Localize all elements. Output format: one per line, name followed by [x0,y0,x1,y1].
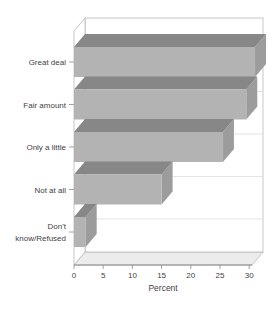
chart-panel: Great dealFair amountOnly a littleNot at… [0,0,280,312]
x-tick-label: 5 [101,271,106,280]
bar-front-face [74,47,255,77]
x-tick-label: 30 [245,271,254,280]
bar-top-face [74,34,266,47]
bar-top-face [74,162,173,175]
bar-front-face [74,175,162,205]
3d-horizontal-bar-chart: Great dealFair amountOnly a littleNot at… [0,0,280,312]
category-label: Only a little [26,143,66,152]
bar-front-face [74,217,86,247]
x-tick-label: 10 [128,271,137,280]
chart-floor [74,252,263,265]
x-tick-label: 25 [216,271,225,280]
category-label: Don't [48,222,67,231]
bar-front-face [74,132,223,162]
bar-top-face [74,119,234,132]
bar-front-face [74,90,246,120]
x-tick-label: 20 [186,271,195,280]
category-label: know/Refused [15,234,66,243]
x-tick-label: 0 [72,271,77,280]
x-tick-label: 15 [157,271,166,280]
bar-top-face [74,77,257,90]
category-label: Not at all [34,186,66,195]
x-axis-title: Percent [148,283,178,293]
category-label: Fair amount [23,101,66,110]
category-label: Great deal [29,58,67,67]
